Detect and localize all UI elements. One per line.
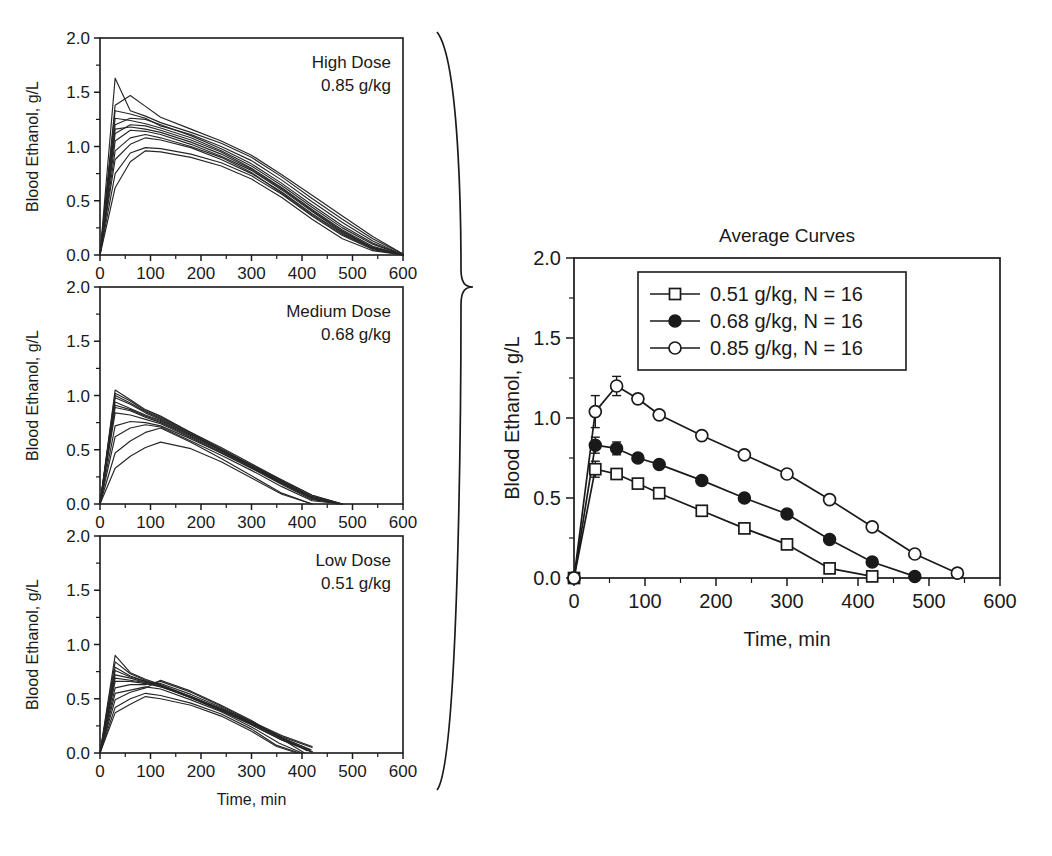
average-curve-line — [574, 469, 872, 578]
figure-canvas: 0.00.51.01.52.00100200300400500600Blood … — [0, 0, 1052, 856]
individual-curve — [100, 675, 312, 753]
x-tick-label: 300 — [237, 762, 265, 781]
individual-curve — [100, 135, 403, 255]
x-tick-label: 400 — [288, 762, 316, 781]
x-tick-label: 0 — [568, 590, 579, 612]
x-axis-title: Time, min — [217, 791, 287, 808]
y-tick-label: 0.0 — [533, 567, 561, 589]
y-tick-label: 1.5 — [66, 581, 90, 600]
data-point-marker — [611, 469, 622, 480]
data-point-marker — [909, 570, 921, 582]
individual-curve — [100, 111, 403, 255]
grouping-brace — [437, 32, 473, 790]
y-tick-label: 0.5 — [66, 690, 90, 709]
x-tick-label: 600 — [389, 762, 417, 781]
x-tick-label: 100 — [628, 590, 661, 612]
panel-note-dose-value: 0.51 g/kg — [321, 574, 391, 593]
y-axis-title: Blood Ethanol, g/L — [24, 81, 41, 212]
y-tick-label: 2.0 — [66, 278, 90, 297]
data-point-marker — [824, 534, 836, 546]
legend-label: 0.85 g/kg, N = 16 — [710, 337, 863, 359]
y-axis-title: Blood Ethanol, g/L — [24, 330, 41, 461]
x-tick-label: 400 — [288, 264, 316, 283]
panel-note-dose-value: 0.68 g/kg — [321, 325, 391, 344]
data-point-marker — [738, 449, 750, 461]
data-point-marker — [611, 380, 623, 392]
y-tick-label: 1.0 — [66, 138, 90, 157]
x-tick-label: 400 — [288, 513, 316, 532]
data-point-marker — [589, 406, 601, 418]
x-tick-label: 600 — [389, 513, 417, 532]
x-tick-label: 500 — [338, 762, 366, 781]
data-point-marker — [696, 505, 707, 516]
panel-low-dose: 0.00.51.01.52.00100200300400500600Blood … — [24, 527, 417, 808]
y-axis-title: Blood Ethanol, g/L — [501, 336, 523, 499]
legend-marker-open-circle — [669, 342, 681, 354]
data-point-marker — [654, 488, 665, 499]
x-tick-label: 0 — [95, 762, 104, 781]
x-tick-label: 600 — [389, 264, 417, 283]
panel-average-curves: Average Curves0.00.51.01.52.001002003004… — [501, 225, 1017, 650]
y-tick-label: 1.0 — [66, 636, 90, 655]
x-tick-label: 200 — [699, 590, 732, 612]
data-point-marker — [739, 523, 750, 534]
individual-curve — [100, 671, 311, 753]
y-tick-label: 2.0 — [66, 527, 90, 546]
panel-medium-dose: 0.00.51.01.52.00100200300400500600Blood … — [24, 278, 417, 532]
data-point-marker — [824, 563, 835, 574]
data-point-marker — [590, 464, 601, 475]
legend-label: 0.68 g/kg, N = 16 — [710, 310, 863, 332]
individual-curve — [100, 442, 312, 504]
y-tick-label: 0.5 — [66, 192, 90, 211]
individual-curve — [100, 422, 342, 504]
data-point-marker — [589, 439, 601, 451]
data-point-marker — [568, 572, 580, 584]
y-tick-label: 2.0 — [66, 29, 90, 48]
average-curve-line — [574, 386, 957, 578]
data-point-marker — [632, 478, 643, 489]
x-tick-label: 100 — [136, 762, 164, 781]
x-tick-label: 200 — [187, 513, 215, 532]
y-tick-label: 1.5 — [533, 327, 561, 349]
x-tick-label: 400 — [841, 590, 874, 612]
x-tick-label: 500 — [912, 590, 945, 612]
panel-note-dose-value: 0.85 g/kg — [321, 76, 391, 95]
x-tick-label: 100 — [136, 264, 164, 283]
data-point-marker — [951, 567, 963, 579]
individual-curve — [100, 680, 305, 753]
x-tick-label: 0 — [95, 264, 104, 283]
y-tick-label: 2.0 — [533, 247, 561, 269]
legend-marker-open-square — [670, 289, 681, 300]
y-tick-label: 1.0 — [66, 387, 90, 406]
figure-root: 0.00.51.01.52.00100200300400500600Blood … — [0, 0, 1052, 856]
y-tick-label: 0.5 — [66, 441, 90, 460]
panel-note-dose-name: Medium Dose — [286, 302, 391, 321]
individual-curve — [100, 118, 403, 255]
x-tick-label: 200 — [187, 264, 215, 283]
x-tick-label: 600 — [983, 590, 1016, 612]
data-point-marker — [632, 452, 644, 464]
individual-curve — [100, 697, 297, 753]
individual-curve — [100, 662, 312, 753]
x-tick-label: 200 — [187, 762, 215, 781]
panel-high-dose: 0.00.51.01.52.00100200300400500600Blood … — [24, 29, 417, 283]
data-point-marker — [867, 571, 878, 582]
y-tick-label: 1.5 — [66, 332, 90, 351]
panel-note-dose-name: High Dose — [312, 53, 391, 72]
y-tick-label: 0.0 — [66, 246, 90, 265]
data-point-marker — [632, 393, 644, 405]
data-point-marker — [866, 556, 878, 568]
y-tick-label: 0.0 — [66, 495, 90, 514]
y-tick-label: 1.0 — [533, 407, 561, 429]
data-point-marker — [781, 508, 793, 520]
data-point-marker — [824, 494, 836, 506]
x-tick-label: 500 — [338, 513, 366, 532]
y-tick-label: 0.5 — [533, 487, 561, 509]
y-tick-label: 0.0 — [66, 744, 90, 763]
data-point-marker — [653, 458, 665, 470]
x-tick-label: 300 — [237, 513, 265, 532]
plot-title: Average Curves — [719, 225, 855, 246]
legend-label: 0.51 g/kg, N = 16 — [710, 283, 863, 305]
legend-marker-filled-circle — [669, 315, 681, 327]
data-point-marker — [866, 521, 878, 533]
